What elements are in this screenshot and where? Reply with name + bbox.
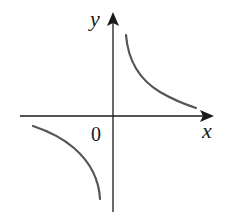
origin-label: 0 [91,124,101,144]
curve-branch-quadrant-3 [33,126,100,199]
x-axis-label: x [202,120,212,142]
curve-branch-quadrant-1 [126,35,196,108]
y-axis-label: y [90,8,100,30]
hyperbola-diagram: y x 0 [0,0,226,217]
graph-canvas [0,0,226,217]
